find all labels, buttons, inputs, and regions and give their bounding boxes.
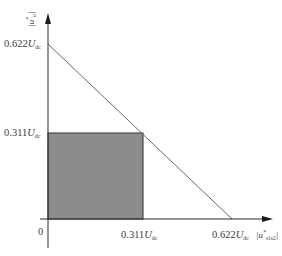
y-axis-label-base: |u (26, 20, 36, 27)
x-tick-0622: 0.622Udc (212, 230, 249, 241)
y-tick-value: 0.622 (4, 38, 28, 49)
y-axis-label-suffix: | (26, 12, 36, 14)
x-tick-value: 0.311 (121, 229, 144, 240)
origin-label: 0 (38, 227, 43, 238)
y-tick-value: 0.311 (4, 127, 27, 138)
y-axis-label: |u*α| (25, 12, 38, 27)
x-tick-0311: 0.311Udc (121, 230, 158, 241)
y-tick-unit-sub: dc (35, 133, 41, 139)
x-tick-unit-sub: dc (152, 235, 158, 241)
x-axis-arrow-icon (262, 216, 273, 222)
y-tick-0622: 0.622Udc (4, 39, 41, 50)
x-axis-label-suffix: | (276, 230, 278, 240)
x-axis-label-base: |u (256, 230, 263, 240)
y-axis-label-sup: * (25, 17, 31, 20)
y-tick-unit: U (27, 127, 35, 138)
y-axis-arrow-icon (45, 13, 51, 24)
x-tick-unit-sub: dc (243, 235, 249, 241)
y-tick-unit-sub: dc (35, 44, 41, 50)
x-axis-label-sub: s1s2 (266, 235, 276, 241)
diagram-canvas (0, 0, 282, 256)
x-tick-unit: U (144, 229, 152, 240)
x-tick-value: 0.622 (212, 229, 236, 240)
y-tick-0311: 0.311Udc (4, 128, 41, 139)
x-axis-label: |u*s1s2| (256, 229, 278, 242)
shaded-square-region (48, 133, 143, 219)
y-axis-label-sub: α (31, 14, 37, 17)
